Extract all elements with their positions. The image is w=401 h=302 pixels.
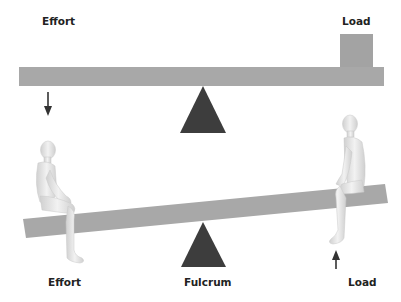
bottom-lever	[23, 115, 388, 269]
top-fulcrum-triangle	[180, 86, 226, 133]
right-seated-person	[329, 115, 365, 244]
top-beam	[19, 67, 384, 86]
top-lever	[19, 34, 384, 133]
lever-diagram-canvas	[0, 0, 401, 302]
effort-down-arrow-icon	[44, 92, 52, 116]
left-seated-person	[36, 141, 83, 263]
load-up-arrow-icon	[332, 250, 340, 269]
bottom-fulcrum-triangle	[181, 222, 226, 267]
load-block	[340, 34, 373, 68]
